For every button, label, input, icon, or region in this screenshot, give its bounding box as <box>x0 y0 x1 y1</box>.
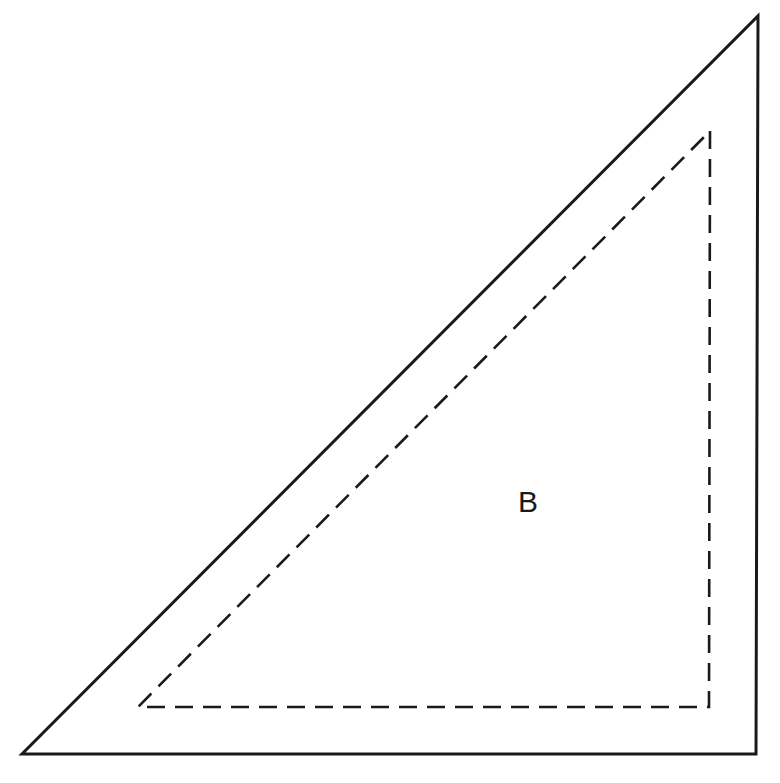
region-label: B <box>518 485 538 518</box>
outer-triangle <box>22 16 758 754</box>
triangle-diagram: B <box>0 0 780 783</box>
inner-dashed-triangle <box>138 131 710 707</box>
